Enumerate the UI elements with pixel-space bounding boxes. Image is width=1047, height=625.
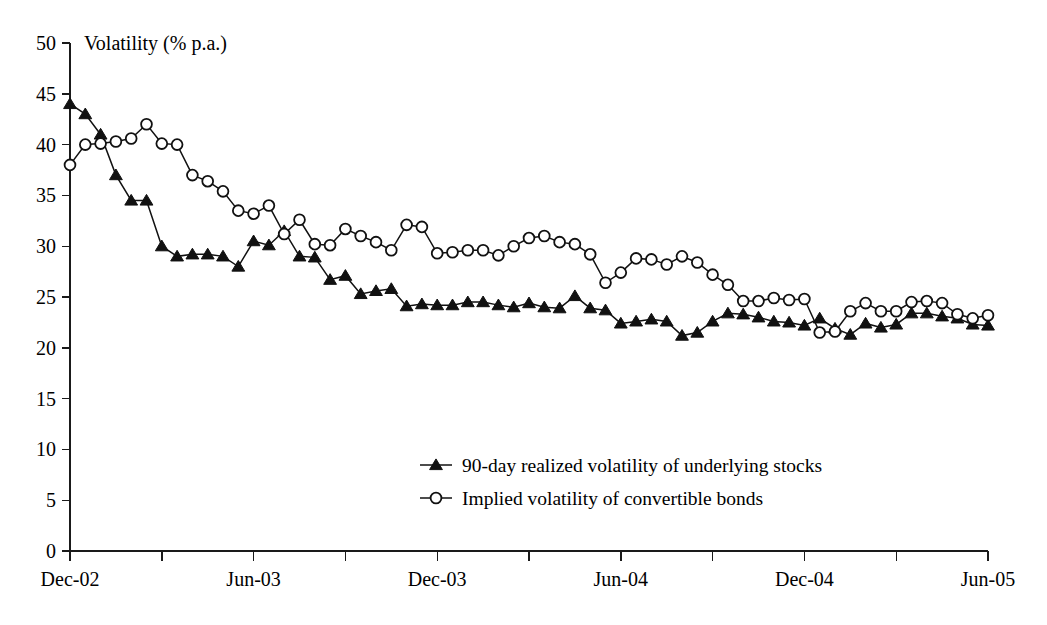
data-point-marker bbox=[645, 313, 658, 324]
data-point-marker bbox=[401, 219, 412, 230]
data-point-marker bbox=[523, 297, 536, 308]
data-point-marker bbox=[294, 214, 305, 225]
data-point-marker bbox=[539, 231, 550, 242]
x-tick-label: Dec-04 bbox=[775, 568, 834, 590]
data-point-marker bbox=[339, 270, 352, 281]
series-1 bbox=[64, 98, 995, 340]
data-point-marker bbox=[646, 254, 657, 265]
data-point-marker bbox=[890, 318, 903, 329]
data-point-marker bbox=[692, 257, 703, 268]
legend-item-2: Implied volatility of convertible bonds bbox=[420, 488, 763, 509]
data-point-marker bbox=[141, 119, 152, 130]
data-point-marker bbox=[202, 176, 213, 187]
data-point-marker bbox=[462, 245, 473, 256]
legend-label: 90-day realized volatility of underlying… bbox=[462, 455, 822, 476]
y-tick-label: 5 bbox=[46, 489, 56, 511]
data-point-marker bbox=[707, 269, 718, 280]
data-point-marker bbox=[983, 310, 994, 321]
x-tick-label: Jun-05 bbox=[961, 568, 1015, 590]
data-point-marker bbox=[432, 248, 443, 259]
data-point-marker bbox=[860, 298, 871, 309]
data-point-marker bbox=[247, 235, 260, 246]
data-point-marker bbox=[768, 293, 779, 304]
data-point-marker bbox=[371, 237, 382, 248]
data-point-marker bbox=[309, 239, 320, 250]
data-point-marker bbox=[615, 267, 626, 278]
data-point-marker bbox=[661, 259, 672, 270]
data-point-marker bbox=[738, 296, 749, 307]
data-point-marker bbox=[876, 306, 887, 317]
x-tick-label: Jun-03 bbox=[226, 568, 280, 590]
y-tick-label: 25 bbox=[36, 286, 56, 308]
data-point-marker bbox=[859, 317, 872, 328]
data-point-marker bbox=[156, 138, 167, 149]
legend-marker-circle-icon bbox=[431, 493, 442, 504]
data-point-marker bbox=[264, 200, 275, 211]
y-axis-title: Volatility (% p.a.) bbox=[84, 32, 227, 55]
data-point-marker bbox=[937, 298, 948, 309]
data-point-marker bbox=[111, 136, 122, 147]
data-point-marker bbox=[799, 294, 810, 305]
data-point-marker bbox=[187, 170, 198, 181]
data-point-marker bbox=[814, 327, 825, 338]
data-point-marker bbox=[952, 309, 963, 320]
data-point-marker bbox=[784, 295, 795, 306]
data-point-marker bbox=[417, 221, 428, 232]
data-point-marker bbox=[232, 260, 245, 271]
data-point-marker bbox=[524, 233, 535, 244]
data-point-marker bbox=[845, 306, 856, 317]
data-point-marker bbox=[386, 245, 397, 256]
data-point-marker bbox=[79, 108, 92, 119]
y-tick-label: 45 bbox=[36, 83, 56, 105]
y-tick-label: 35 bbox=[36, 184, 56, 206]
data-point-marker bbox=[355, 231, 366, 242]
data-point-marker bbox=[385, 283, 398, 294]
data-point-marker bbox=[508, 241, 519, 252]
data-point-marker bbox=[80, 139, 91, 150]
chart-svg: 05101520253035404550 Dec-02Jun-03Dec-03J… bbox=[0, 0, 1047, 625]
data-point-marker bbox=[967, 313, 978, 324]
legend-label: Implied volatility of convertible bonds bbox=[462, 488, 763, 509]
y-tick-label: 10 bbox=[36, 438, 56, 460]
series-group bbox=[64, 98, 995, 340]
data-point-marker bbox=[677, 251, 688, 262]
y-tick-label: 50 bbox=[36, 32, 56, 54]
x-tick-label: Jun-04 bbox=[594, 568, 648, 590]
data-point-marker bbox=[570, 239, 581, 250]
volatility-chart: 05101520253035404550 Dec-02Jun-03Dec-03J… bbox=[0, 0, 1047, 625]
data-point-marker bbox=[126, 133, 137, 144]
data-point-marker bbox=[706, 315, 719, 326]
data-point-marker bbox=[753, 296, 764, 307]
chart-legend: 90-day realized volatility of underlying… bbox=[420, 455, 822, 509]
data-point-marker bbox=[906, 297, 917, 308]
data-point-marker bbox=[478, 245, 489, 256]
data-point-marker bbox=[493, 250, 504, 261]
data-point-marker bbox=[891, 306, 902, 317]
data-point-marker bbox=[554, 237, 565, 248]
data-point-marker bbox=[631, 253, 642, 264]
data-point-marker bbox=[248, 208, 259, 219]
y-tick-label: 15 bbox=[36, 388, 56, 410]
data-point-marker bbox=[447, 247, 458, 258]
data-point-marker bbox=[600, 277, 611, 288]
x-axis-ticks: Dec-02Jun-03Dec-03Jun-04Dec-04Jun-05 bbox=[41, 551, 1016, 590]
y-axis-ticks: 05101520253035404550 bbox=[36, 32, 70, 562]
data-point-marker bbox=[921, 296, 932, 307]
y-tick-label: 40 bbox=[36, 134, 56, 156]
data-point-marker bbox=[233, 205, 244, 216]
data-point-marker bbox=[325, 240, 336, 251]
data-point-marker bbox=[155, 240, 168, 251]
data-point-marker bbox=[110, 169, 123, 180]
y-tick-label: 0 bbox=[46, 540, 56, 562]
data-point-marker bbox=[585, 249, 596, 260]
data-point-marker bbox=[722, 307, 735, 318]
data-point-marker bbox=[279, 229, 290, 240]
y-tick-label: 20 bbox=[36, 337, 56, 359]
data-point-marker bbox=[218, 186, 229, 197]
data-point-marker bbox=[569, 290, 582, 301]
legend-item-1: 90-day realized volatility of underlying… bbox=[420, 455, 822, 476]
data-point-marker bbox=[293, 250, 306, 261]
data-point-marker bbox=[65, 160, 76, 171]
data-point-marker bbox=[64, 98, 77, 109]
data-point-marker bbox=[723, 279, 734, 290]
